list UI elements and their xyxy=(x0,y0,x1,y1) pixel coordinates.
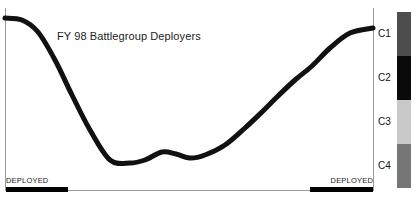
legend-swatch-c2 xyxy=(397,56,411,100)
legend: C1C2C3C4 xyxy=(378,0,416,198)
deployed-bar-right xyxy=(310,187,373,192)
chart-screenshot: FY 98 Battlegroup Deployers DEPLOYED DEP… xyxy=(0,0,416,198)
deployed-label-left: DEPLOYED xyxy=(6,176,48,185)
deployed-marker-right: DEPLOYED xyxy=(310,176,373,198)
legend-label-c1: C1 xyxy=(378,29,396,39)
legend-label-c2: C2 xyxy=(378,73,396,83)
legend-swatch-c1 xyxy=(397,12,411,56)
deployed-bar-left xyxy=(6,187,68,192)
legend-label-c4: C4 xyxy=(378,161,396,171)
chart-panel: FY 98 Battlegroup Deployers DEPLOYED DEP… xyxy=(0,0,380,198)
chart-title: FY 98 Battlegroup Deployers xyxy=(57,30,201,42)
deployed-label-right: DEPLOYED xyxy=(331,176,373,185)
deployed-marker-left: DEPLOYED xyxy=(6,176,68,198)
legend-label-c3: C3 xyxy=(378,117,396,127)
legend-swatch-c4 xyxy=(397,144,411,188)
legend-swatch-c3 xyxy=(397,100,411,144)
